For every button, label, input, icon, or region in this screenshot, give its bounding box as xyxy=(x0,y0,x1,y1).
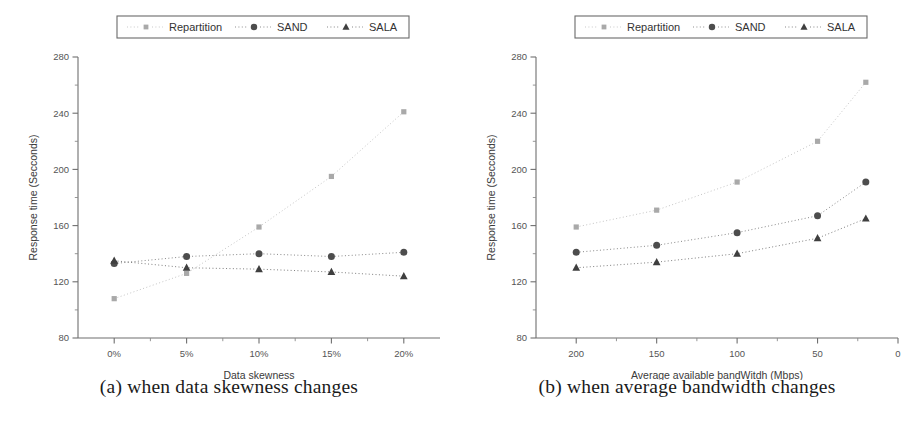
x-axis-title: Average available bandWitdh (Mbps) xyxy=(631,369,803,380)
marker-circle xyxy=(653,242,660,249)
series-line-sand xyxy=(576,182,866,252)
legend-box xyxy=(575,16,867,38)
marker-square xyxy=(112,296,117,301)
x-tick-label: 0 xyxy=(895,348,900,359)
x-tick-label: 5% xyxy=(180,348,194,359)
legend-label-sala: SALA xyxy=(369,21,398,33)
marker-triangle xyxy=(733,250,741,257)
y-axis-title: Response time (Secconds) xyxy=(485,134,497,260)
y-tick-label: 280 xyxy=(53,51,69,62)
legend-label-sala: SALA xyxy=(827,21,856,33)
marker-circle xyxy=(862,179,869,186)
y-tick-label: 200 xyxy=(511,164,527,175)
x-tick-label: 15% xyxy=(322,348,342,359)
marker-square xyxy=(574,224,579,229)
marker-triangle xyxy=(183,264,191,271)
y-tick-label: 120 xyxy=(511,276,527,287)
marker-circle xyxy=(251,24,257,30)
chart-b: 80120160200240280200150100500Average ava… xyxy=(458,0,916,380)
legend-box xyxy=(117,16,409,38)
y-tick-label: 120 xyxy=(53,276,69,287)
marker-triangle xyxy=(328,268,336,275)
legend-label-sand: SAND xyxy=(735,21,766,33)
marker-circle xyxy=(814,212,821,219)
marker-square xyxy=(184,271,189,276)
marker-square xyxy=(735,179,740,184)
marker-square xyxy=(144,25,149,30)
marker-circle xyxy=(709,24,715,30)
marker-triangle xyxy=(862,214,870,221)
y-tick-label: 160 xyxy=(511,220,527,231)
x-tick-label: 150 xyxy=(649,348,665,359)
series-line-repartition xyxy=(576,82,866,227)
marker-square xyxy=(654,208,659,213)
marker-circle xyxy=(734,229,741,236)
x-tick-label: 100 xyxy=(729,348,745,359)
legend: RepartitionSANDSALA xyxy=(117,16,409,38)
marker-circle xyxy=(400,249,407,256)
x-tick-label: 0% xyxy=(107,348,121,359)
y-tick-label: 160 xyxy=(53,220,69,231)
legend-label-sand: SAND xyxy=(277,21,308,33)
y-tick-label: 240 xyxy=(511,108,527,119)
x-tick-label: 200 xyxy=(568,348,584,359)
marker-triangle xyxy=(400,272,408,279)
chart-a: 801201602002402800%5%10%15%20%Data skewn… xyxy=(0,0,458,380)
marker-square xyxy=(401,109,406,114)
marker-circle xyxy=(183,253,190,260)
x-tick-label: 50 xyxy=(812,348,823,359)
y-tick-label: 280 xyxy=(511,51,527,62)
y-axis-title: Response time (Secconds) xyxy=(27,134,39,260)
chart-body: 80120160200240280200150100500Average ava… xyxy=(485,16,901,380)
subfigure-b: 80120160200240280200150100500Average ava… xyxy=(458,0,916,432)
marker-square xyxy=(256,224,261,229)
series-line-sala xyxy=(576,219,866,268)
marker-square xyxy=(863,80,868,85)
chart-body: 801201602002402800%5%10%15%20%Data skewn… xyxy=(27,16,440,380)
legend-label-repartition: Repartition xyxy=(169,21,222,33)
marker-triangle xyxy=(572,264,580,271)
plot-a-wrapper: 801201602002402800%5%10%15%20%Data skewn… xyxy=(0,0,458,380)
marker-triangle xyxy=(110,257,118,264)
y-axis-title-group: Response time (Secconds) xyxy=(27,134,39,260)
marker-circle xyxy=(328,253,335,260)
marker-circle xyxy=(573,249,580,256)
marker-square xyxy=(329,174,334,179)
y-tick-label: 80 xyxy=(516,332,527,343)
legend: RepartitionSANDSALA xyxy=(575,16,867,38)
marker-square xyxy=(815,139,820,144)
subfigure-a: 801201602002402800%5%10%15%20%Data skewn… xyxy=(0,0,458,432)
y-tick-label: 200 xyxy=(53,164,69,175)
x-axis-title: Data skewness xyxy=(223,369,294,380)
marker-circle xyxy=(256,250,263,257)
plot-b-wrapper: 80120160200240280200150100500Average ava… xyxy=(458,0,916,380)
marker-triangle xyxy=(653,258,661,265)
marker-square xyxy=(602,25,607,30)
y-tick-label: 240 xyxy=(53,108,69,119)
x-tick-label: 20% xyxy=(394,348,414,359)
marker-triangle xyxy=(814,234,822,241)
y-axis-title-group: Response time (Secconds) xyxy=(485,134,497,260)
marker-triangle xyxy=(255,265,263,272)
legend-label-repartition: Repartition xyxy=(627,21,680,33)
y-tick-label: 80 xyxy=(58,332,69,343)
figure-row: 801201602002402800%5%10%15%20%Data skewn… xyxy=(0,0,917,432)
x-tick-label: 10% xyxy=(249,348,269,359)
